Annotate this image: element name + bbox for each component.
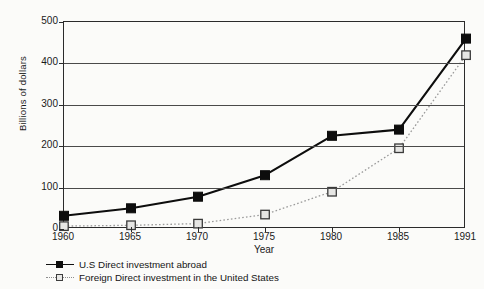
y-tick-mark — [59, 63, 64, 64]
x-tick-label: 1970 — [186, 231, 208, 242]
plot-area — [63, 21, 465, 228]
legend-marker-open-square-icon — [45, 271, 75, 284]
gridline — [64, 105, 464, 106]
x-tick-label: 1985 — [387, 231, 409, 242]
y-tick-label: 400 — [24, 57, 58, 67]
y-tick-label: 100 — [24, 182, 58, 192]
x-tick-label: 1980 — [320, 231, 342, 242]
series-line — [64, 55, 466, 226]
gridline — [64, 188, 464, 189]
series-line — [64, 39, 466, 216]
y-tick-mark — [59, 22, 64, 23]
gridline — [64, 63, 464, 64]
x-axis-title: Year — [63, 244, 465, 255]
x-tick-label: 1991 — [454, 231, 476, 242]
data-point-marker — [462, 34, 471, 43]
data-point-marker — [328, 131, 337, 140]
x-tick-label: 1975 — [253, 231, 275, 242]
gridline — [64, 146, 464, 147]
y-tick-label: 200 — [24, 140, 58, 150]
x-tick-label: 1960 — [52, 231, 74, 242]
data-point-marker — [127, 204, 136, 213]
legend-label: U.S Direct investment abroad — [75, 258, 207, 271]
y-tick-mark — [59, 229, 64, 230]
y-tick-mark — [59, 146, 64, 147]
legend-item-foreign-direct-investment-in-us: Foreign Direct investment in the United … — [45, 271, 279, 284]
x-axis-tick-labels: 1960196519701975198019851991 — [63, 231, 465, 245]
data-point-marker — [395, 125, 404, 134]
chart-figure: Billions of dollars 0100200300400500 196… — [0, 0, 484, 289]
data-point-marker — [462, 51, 471, 60]
data-point-marker — [261, 171, 270, 180]
legend-label: Foreign Direct investment in the United … — [75, 271, 279, 284]
y-axis-tick-labels: 0100200300400500 — [22, 0, 58, 289]
chart-legend: U.S Direct investment abroad Foreign Dir… — [45, 258, 279, 284]
series-foreign-investment-in-us — [60, 51, 471, 231]
data-point-marker — [194, 192, 203, 201]
y-tick-mark — [59, 188, 64, 189]
data-point-marker — [328, 188, 337, 197]
legend-marker-filled-square-icon — [45, 258, 75, 271]
y-tick-mark — [59, 105, 64, 106]
y-tick-label: 300 — [24, 99, 58, 109]
series-us-investment-abroad — [60, 34, 471, 220]
data-point-marker — [60, 211, 69, 220]
data-series-layer — [64, 22, 466, 229]
legend-item-us-direct-investment-abroad: U.S Direct investment abroad — [45, 258, 279, 271]
x-tick-label: 1965 — [119, 231, 141, 242]
y-tick-label: 500 — [24, 16, 58, 26]
data-point-marker — [261, 210, 270, 219]
